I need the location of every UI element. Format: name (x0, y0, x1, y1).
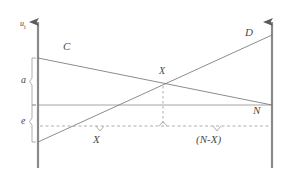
marker-n-label: N (253, 105, 260, 116)
y-axis-label: ui (20, 20, 26, 30)
brace-a-label: a (21, 75, 26, 85)
curve-c-label: C (63, 41, 70, 52)
curve-c-line (38, 58, 272, 105)
intersection-label: X (159, 66, 165, 76)
segment-nx-label: (N-X) (196, 134, 221, 145)
diagram-svg (0, 0, 307, 176)
segment-nx-tick (213, 126, 221, 131)
y-axis-label-subscript: i (24, 24, 26, 30)
brace-a (30, 58, 37, 105)
brace-e (30, 105, 37, 142)
segment-x-tick (96, 126, 104, 131)
curve-d-label: D (245, 27, 253, 38)
diagram-canvas: ui C D X a e X (N-X) N (0, 0, 307, 176)
segment-x-label: X (93, 134, 100, 145)
brace-e-label: e (21, 116, 25, 126)
